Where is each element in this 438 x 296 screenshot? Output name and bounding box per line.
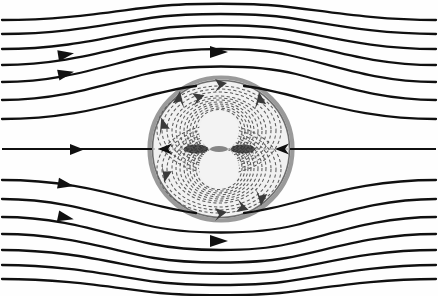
stagnation-smudge-left <box>184 145 208 154</box>
stagnation-smudge-right <box>231 145 255 154</box>
vortex-core-lower <box>199 148 239 188</box>
stagnation-smudge-center <box>210 146 228 152</box>
flow-field-canvas <box>0 0 438 296</box>
streamline-flow-diagram <box>0 0 438 296</box>
vortex-core-upper <box>199 111 239 151</box>
